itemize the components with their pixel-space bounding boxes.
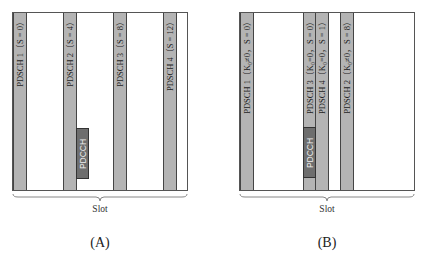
pdsch-bar-3: PDSCH 3（S = 8） [113, 13, 127, 190]
pdsch-label: PDSCH 3（S = 8） [116, 17, 125, 87]
pdsch-label: PDSCH 1（S = 0） [16, 17, 25, 87]
pdsch-bar-1: PDSCH 1（K₀≠0，S = 0） [240, 13, 254, 190]
pdcch-label: PDCCH [78, 138, 88, 168]
caption-a: (A) [12, 235, 188, 251]
slot-label-b: Slot [239, 204, 415, 214]
pdsch-label: PDSCH 2（S = 4） [66, 17, 75, 87]
pdsch-bar-4: PDSCH 4（K₀=0，S = 1） [315, 13, 329, 190]
pdcch-block: PDCCH [76, 128, 89, 179]
pdsch-bar-2: PDSCH 2（K₀≠0，S = 8） [340, 13, 354, 190]
slot-diagram-a: PDSCH 1（S = 0） PDSCH 2（S = 4） PDSCH 3（S … [12, 12, 188, 191]
pdsch-label: PDSCH 3（K₀=0，S = 0） [305, 17, 314, 114]
pdsch-label: PDSCH 4（S = 12） [166, 17, 175, 91]
caption-b: (B) [239, 235, 415, 251]
pdcch-block: PDCCH [303, 127, 316, 178]
pdsch-bar-1: PDSCH 1（S = 0） [13, 13, 27, 190]
pdcch-label: PDCCH [305, 137, 315, 167]
pdsch-label: PDSCH 2（K₀≠0，S = 8） [343, 17, 352, 114]
slot-brace-a [12, 194, 188, 202]
pdsch-bar-2: PDSCH 2（S = 4） [63, 13, 77, 190]
slot-diagram-b: PDSCH 1（K₀≠0，S = 0） PDSCH 3（K₀=0，S = 0） … [239, 12, 415, 191]
pdsch-bar-4: PDSCH 4（S = 12） [163, 13, 177, 190]
pdsch-label: PDSCH 4（K₀=0，S = 1） [318, 17, 327, 114]
pdsch-label: PDSCH 1（K₀≠0，S = 0） [243, 17, 252, 114]
slot-label-a: Slot [12, 204, 188, 214]
slot-brace-b [239, 194, 415, 202]
